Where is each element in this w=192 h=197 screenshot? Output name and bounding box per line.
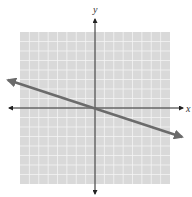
graph-container: y x (0, 0, 192, 197)
coordinate-plane: y x (0, 0, 192, 197)
x-axis-label: x (185, 103, 191, 114)
y-axis-label: y (92, 4, 98, 15)
